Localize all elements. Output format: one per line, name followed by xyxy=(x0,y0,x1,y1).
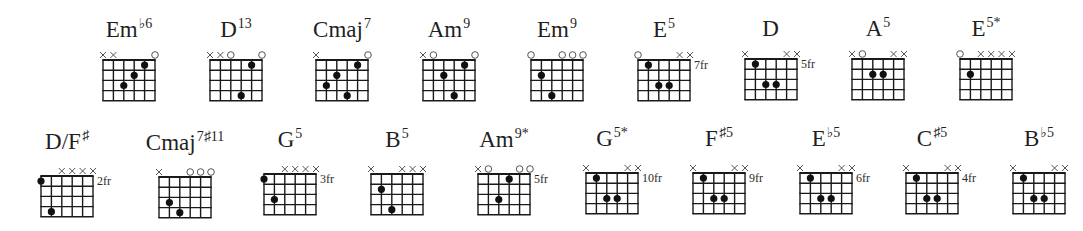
muted-string-icon xyxy=(207,52,213,58)
chord-root: G xyxy=(596,126,613,151)
open-string-icon xyxy=(152,52,159,59)
chord-extension: ♭5 xyxy=(827,125,841,140)
chord-root: Em xyxy=(537,17,569,42)
finger-dot xyxy=(323,82,330,89)
finger-dot xyxy=(655,82,662,89)
chord-root: C xyxy=(917,126,932,151)
finger-dot xyxy=(506,176,513,183)
chord-root: Cmaj xyxy=(313,17,363,42)
finger-dot xyxy=(141,62,148,69)
fretboard-grid xyxy=(415,48,483,109)
chord-extension: ♯ xyxy=(82,128,89,143)
finger-dot xyxy=(260,176,267,183)
finger-dot xyxy=(548,92,555,99)
muted-string-icon xyxy=(399,166,405,172)
fretboard-grid xyxy=(308,48,376,109)
chord-root: B xyxy=(1024,126,1039,151)
finger-dot xyxy=(538,72,545,79)
fretboard-grid xyxy=(792,161,860,222)
muted-string-icon xyxy=(742,165,748,171)
fretboard-grid xyxy=(363,162,431,223)
chord-extension: 5 xyxy=(668,16,675,31)
fret-position-label: 2fr xyxy=(97,174,111,189)
chord-name: G5 xyxy=(278,128,303,151)
finger-dot xyxy=(828,195,835,202)
muted-string-icon xyxy=(410,166,416,172)
finger-dot xyxy=(869,71,876,78)
open-string-icon xyxy=(472,52,479,59)
muted-string-icon xyxy=(313,52,319,58)
muted-string-icon xyxy=(978,51,984,57)
chord-root: D xyxy=(762,16,779,41)
fretboard-grid xyxy=(685,161,753,222)
chord-name: D13 xyxy=(220,18,252,41)
finger-dot xyxy=(614,195,621,202)
finger-dot xyxy=(721,195,728,202)
muted-string-icon xyxy=(635,165,641,171)
chord-name: Em9 xyxy=(537,18,577,41)
fretboard-grid xyxy=(256,162,324,223)
finger-dot xyxy=(880,71,887,78)
finger-dot xyxy=(967,71,974,78)
finger-dot xyxy=(923,195,930,202)
muted-string-icon xyxy=(784,51,790,57)
finger-dot xyxy=(120,82,127,89)
chord-extension: 7 xyxy=(364,16,371,31)
finger-dot xyxy=(176,209,183,216)
open-string-icon xyxy=(365,52,372,59)
chord-name: F♯5 xyxy=(705,127,733,150)
fretboard-grid xyxy=(202,48,270,109)
muted-string-icon xyxy=(292,166,298,172)
muted-string-icon xyxy=(282,166,288,172)
chord-extension: 5* xyxy=(987,15,1001,30)
muted-string-icon xyxy=(625,165,631,171)
chord-name: Am9* xyxy=(479,128,529,151)
finger-dot xyxy=(666,82,673,89)
chord-name: Cmaj7 xyxy=(313,18,371,41)
muted-string-icon xyxy=(100,52,106,58)
finger-dot xyxy=(248,62,255,69)
chord-root: Am xyxy=(428,17,463,42)
finger-dot xyxy=(344,92,351,99)
finger-dot xyxy=(762,81,769,88)
chord-name: B5 xyxy=(385,128,408,151)
muted-string-icon xyxy=(955,165,961,171)
chord-extension: 13 xyxy=(238,16,252,31)
fretboard-grid xyxy=(523,48,591,109)
chord-root: D/F xyxy=(45,129,81,154)
muted-string-icon xyxy=(583,165,589,171)
muted-string-icon xyxy=(110,52,116,58)
chord-extension: ♭6 xyxy=(139,16,153,31)
open-string-icon xyxy=(859,51,866,58)
muted-string-icon xyxy=(797,165,803,171)
muted-string-icon xyxy=(849,165,855,171)
chord-root: F xyxy=(705,126,718,151)
fretboard-grid xyxy=(1005,161,1073,222)
muted-string-icon xyxy=(313,166,319,172)
finger-dot xyxy=(773,81,780,88)
muted-string-icon xyxy=(420,52,426,58)
open-string-icon xyxy=(485,166,492,173)
finger-dot xyxy=(131,72,138,79)
finger-dot xyxy=(752,61,759,68)
chord-name: D/F♯ xyxy=(45,130,89,153)
chord-root: E xyxy=(971,16,985,41)
open-string-icon xyxy=(580,52,587,59)
finger-dot xyxy=(645,62,652,69)
chord-root: Cmaj xyxy=(146,130,196,155)
fretboard-grid xyxy=(737,47,805,108)
open-string-icon xyxy=(957,51,964,58)
muted-string-icon xyxy=(303,166,309,172)
open-string-icon xyxy=(527,166,534,173)
chord-extension: 5* xyxy=(614,125,628,140)
muted-string-icon xyxy=(839,165,845,171)
finger-dot xyxy=(817,195,824,202)
open-string-icon xyxy=(430,52,437,59)
fretboard-grid xyxy=(151,165,219,226)
finger-dot xyxy=(593,175,600,182)
open-string-icon xyxy=(208,169,215,176)
muted-string-icon xyxy=(849,51,855,57)
finger-dot xyxy=(333,72,340,79)
fret-position-label: 7fr xyxy=(694,58,708,73)
muted-string-icon xyxy=(69,168,75,174)
